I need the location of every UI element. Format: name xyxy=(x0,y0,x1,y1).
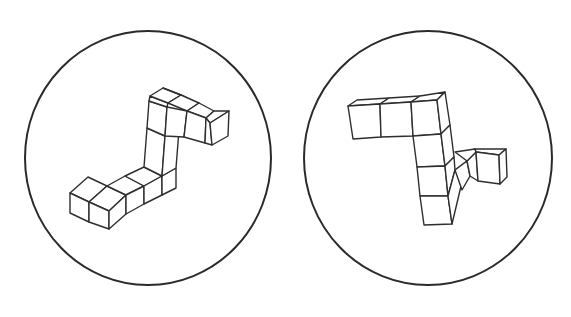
left-figure xyxy=(25,31,271,285)
cube-face xyxy=(420,196,452,225)
cube-face xyxy=(411,100,441,136)
cube-face xyxy=(348,104,381,139)
left-polycube xyxy=(70,88,229,229)
right-polycube xyxy=(348,92,507,225)
cube-face xyxy=(476,152,500,184)
diagram-canvas xyxy=(0,0,571,317)
cube-face xyxy=(380,102,413,137)
cube-face xyxy=(413,134,445,167)
cube-face xyxy=(165,107,187,137)
right-figure xyxy=(304,31,552,285)
cube-face xyxy=(499,149,507,184)
cube-face xyxy=(417,166,448,196)
